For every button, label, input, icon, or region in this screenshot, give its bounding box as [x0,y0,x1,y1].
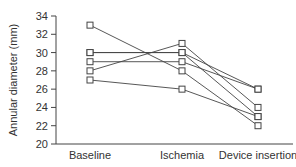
square-marker-icon [179,59,185,65]
y-tick-label: 28 [36,65,48,77]
line-chart: 2022242628303234 BaselineIschemiaDevice … [0,0,296,167]
square-marker-icon [87,77,93,83]
square-marker-icon [179,68,185,74]
square-marker-icon [255,104,261,110]
series-line [90,53,258,90]
square-marker-icon [255,114,261,120]
square-marker-icon [87,22,93,28]
y-tick-label: 32 [36,28,48,40]
series-line [90,62,258,89]
x-category-label: Ischemia [160,149,205,161]
square-marker-icon [179,86,185,92]
series-lines [87,22,261,129]
y-tick-label: 34 [36,10,48,22]
y-tick-label: 24 [36,101,48,113]
series-line [90,25,258,126]
x-category-label: Baseline [69,149,111,161]
y-tick-label: 30 [36,47,48,59]
x-category-label: Device insertion [219,149,296,161]
series-line [90,80,258,117]
y-tick-label: 22 [36,120,48,132]
y-axis: 2022242628303234 [36,10,56,150]
y-tick-label: 20 [36,138,48,150]
y-axis-title: Annular diameter (mm) [7,24,19,136]
square-marker-icon [179,50,185,56]
x-axis: BaselineIschemiaDevice insertion [56,144,296,161]
series-line [90,43,258,107]
square-marker-icon [255,86,261,92]
square-marker-icon [87,68,93,74]
square-marker-icon [179,40,185,46]
square-marker-icon [255,123,261,129]
square-marker-icon [87,50,93,56]
square-marker-icon [87,59,93,65]
y-tick-label: 26 [36,83,48,95]
